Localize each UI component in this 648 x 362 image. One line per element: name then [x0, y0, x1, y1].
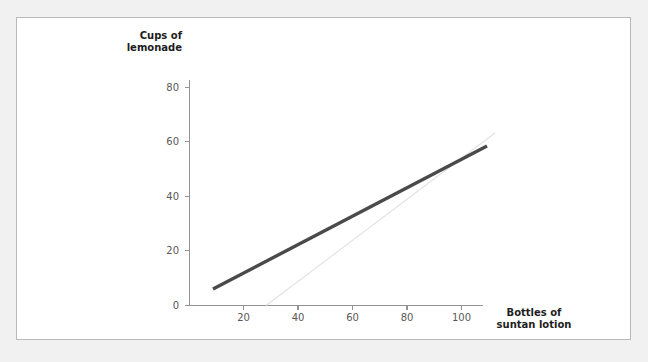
- x-tick-label-80: 80: [401, 312, 414, 323]
- x-axis-title-line1: Bottles of: [507, 307, 563, 318]
- x-tick-label-100: 100: [452, 312, 471, 323]
- y-tick-label-0: 0: [173, 300, 179, 311]
- y-axis-title-line1: Cups of: [140, 30, 183, 41]
- x-tick-label-60: 60: [346, 312, 359, 323]
- plot-area: 0 20 40 60 80 20 40 60 80 100 Cups of: [17, 18, 632, 341]
- y-tick-label-80: 80: [166, 82, 179, 93]
- trend-line: [213, 146, 487, 289]
- chart-page: 0 20 40 60 80 20 40 60 80 100 Cups of: [0, 0, 648, 362]
- line-chart: 0 20 40 60 80 20 40 60 80 100 Cups of: [17, 18, 632, 341]
- x-tick-label-20: 20: [237, 312, 250, 323]
- y-tick-label-40: 40: [166, 191, 179, 202]
- chart-card: 0 20 40 60 80 20 40 60 80 100 Cups of: [16, 17, 631, 340]
- y-tick-label-20: 20: [166, 245, 179, 256]
- y-axis-title-line2: lemonade: [127, 42, 183, 53]
- x-axis-title-line2: suntan lotion: [497, 319, 572, 330]
- x-tick-label-40: 40: [292, 312, 305, 323]
- y-tick-label-60: 60: [166, 136, 179, 147]
